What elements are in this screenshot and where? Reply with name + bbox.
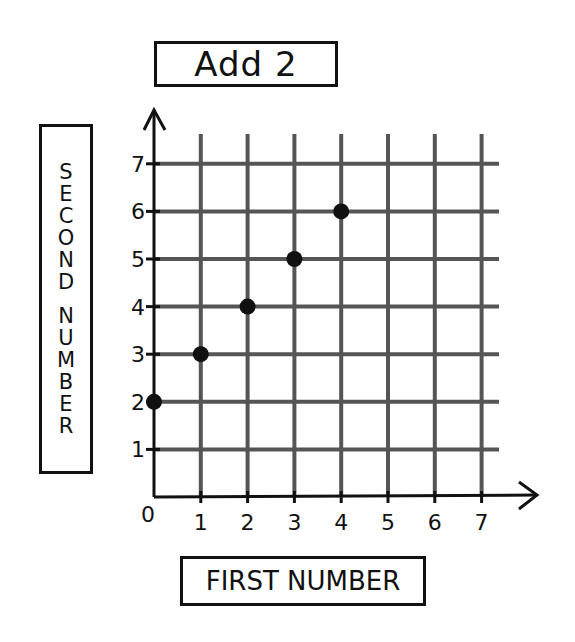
- data-point: [146, 394, 162, 410]
- x-tick-label: 1: [194, 510, 208, 535]
- y-tick-label: 7: [131, 152, 145, 177]
- y-tick-label: 6: [131, 199, 145, 224]
- data-point: [286, 251, 302, 267]
- x-tick-label: 7: [475, 510, 489, 535]
- x-tick-label: 6: [428, 510, 442, 535]
- y-tick-label: 5: [131, 247, 145, 272]
- data-point: [240, 299, 256, 315]
- x-axis-label: FIRST NUMBER: [180, 556, 426, 606]
- data-point: [333, 203, 349, 219]
- x-tick-label: 3: [287, 510, 301, 535]
- x-tick-label: 5: [381, 510, 395, 535]
- data-point: [193, 346, 209, 362]
- grid-lines: [154, 134, 499, 497]
- plot-area: 012345671234567: [0, 0, 575, 642]
- x-tick-label: 2: [241, 510, 255, 535]
- x-axis: [154, 495, 535, 497]
- x-tick-label: 0: [141, 502, 155, 527]
- y-tick-label: 3: [131, 342, 145, 367]
- y-tick-label: 2: [131, 390, 145, 415]
- x-axis-label-text: FIRST NUMBER: [206, 566, 401, 596]
- y-tick-label: 1: [131, 437, 145, 462]
- x-tick-label: 4: [334, 510, 348, 535]
- y-tick-label: 4: [131, 295, 145, 320]
